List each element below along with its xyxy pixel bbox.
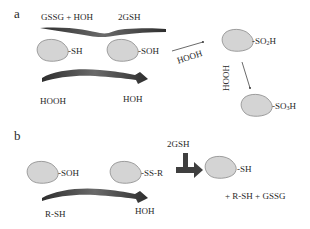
label-r-sh: R-SH xyxy=(45,210,66,219)
label-hoh: HOH xyxy=(123,95,143,104)
group-sh: -SH xyxy=(68,47,83,56)
group-so2h: -SO2H xyxy=(252,37,276,46)
protein-a2 xyxy=(107,39,138,61)
panel-label-b: b xyxy=(14,129,21,142)
label-hooh-arrow2: HOOH xyxy=(221,65,230,91)
label-gssg-hoh: GSSG + HOH xyxy=(41,13,93,22)
panel-label-a: a xyxy=(14,7,20,20)
protein-a3 xyxy=(222,29,253,51)
label-2gsh-b: 2GSH xyxy=(167,140,190,149)
label-2gsh: 2GSH xyxy=(118,13,141,22)
protein-a1 xyxy=(37,39,68,61)
protein-b1 xyxy=(27,161,58,183)
group-soh: -SOH xyxy=(138,47,159,56)
protein-a4 xyxy=(241,94,272,116)
oxidation-arrow-2 xyxy=(242,62,250,88)
panel-b-reaction-arrow xyxy=(42,188,148,203)
label-hooh: HOOH xyxy=(40,97,66,106)
protein-b3 xyxy=(205,156,236,178)
bottom-reaction-arrow xyxy=(42,69,148,84)
group-soh-b: -SOH xyxy=(58,169,79,178)
label-hoh-b: HOH xyxy=(135,207,155,216)
group-so3h: -SO3H xyxy=(272,102,296,111)
label-products: + R-SH + GSSG xyxy=(225,192,285,201)
top-reaction-arrow xyxy=(40,28,166,38)
gsh-reduction-arrow xyxy=(176,153,203,178)
protein-b2 xyxy=(110,161,141,183)
group-ss-r: -SS-R xyxy=(141,169,163,178)
group-sh-b: -SH xyxy=(237,165,252,174)
